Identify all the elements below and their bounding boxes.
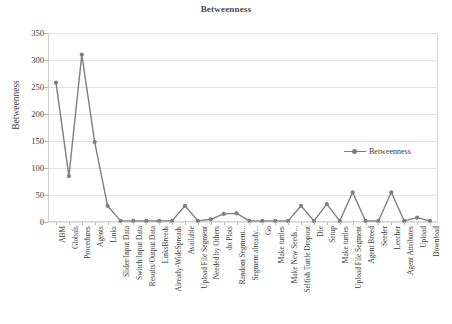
x-axis-tick-mark: [69, 222, 70, 225]
x-axis-tick-mark: [366, 222, 367, 225]
x-axis-category-label: Results/Output Data: [149, 226, 156, 286]
y-axis-tick-label: 350: [10, 28, 44, 38]
data-point-marker: [54, 81, 58, 85]
x-axis-tick-mark: [108, 222, 109, 225]
x-axis-category-label: Upload File Segment: [201, 226, 208, 289]
data-point-marker: [80, 53, 84, 57]
x-axis-tick-mark: [314, 222, 315, 225]
x-axis-tick-mark: [172, 222, 173, 225]
x-axis-tick-mark: [237, 222, 238, 225]
x-axis-tick-mark: [224, 222, 225, 225]
x-axis-category-label: Slider/Input Data: [123, 226, 130, 277]
x-axis-tick-mark: [340, 222, 341, 225]
y-axis-tick-labels: 050100150200250300350: [6, 33, 44, 222]
x-axis-category-label: Switch/Input Data: [136, 226, 143, 280]
data-point-marker: [67, 174, 71, 178]
data-point-marker: [93, 140, 97, 144]
plot-area: [48, 33, 438, 222]
x-axis-category-label: Download: [433, 226, 440, 257]
x-axis-tick-mark: [95, 222, 96, 225]
x-axis-category-label: Leecher: [394, 226, 401, 250]
data-series-layer: [48, 33, 438, 222]
x-axis-tick-mark: [146, 222, 147, 225]
y-axis-tick-label: 200: [10, 109, 44, 119]
x-axis-category-label: Links: [110, 226, 117, 243]
data-point-marker: [325, 202, 329, 206]
chart-title: Betweenness: [0, 4, 452, 14]
x-axis-category-label: Seeder: [381, 226, 388, 246]
chart-legend: Betweenness: [344, 147, 411, 156]
x-axis-category-label: Make turtles: [342, 226, 349, 263]
x-axis-tick-mark: [198, 222, 199, 225]
x-axis-tick-mark: [430, 222, 431, 225]
y-axis-tick-label: 300: [10, 55, 44, 65]
data-point-marker: [209, 217, 213, 221]
y-axis-tick-label: 100: [10, 163, 44, 173]
data-point-marker: [389, 190, 393, 194]
x-axis-category-label: Selfish Turtle Dropout: [304, 226, 311, 293]
x-axis-category-label: Globals: [72, 226, 79, 249]
x-axis-tick-mark: [159, 222, 160, 225]
x-axis-tick-mark: [404, 222, 405, 225]
x-axis-tick-mark: [301, 222, 302, 225]
x-axis-category-label: ABM: [59, 226, 66, 243]
data-point-marker: [234, 211, 238, 215]
y-axis-tick-label: 150: [10, 136, 44, 146]
x-axis-tick-mark: [82, 222, 83, 225]
x-axis-tick-mark: [378, 222, 379, 225]
x-axis-category-label: Agent Attributes: [407, 226, 414, 275]
x-axis-tick-mark: [262, 222, 263, 225]
x-axis-tick-mark: [185, 222, 186, 225]
x-axis-category-label: Upload: [420, 226, 427, 248]
x-axis-category-label: Make turtles: [278, 226, 285, 263]
x-axis-tick-mark: [56, 222, 57, 225]
x-axis-category-label: Go: [265, 226, 272, 235]
x-axis-tick-mark: [327, 222, 328, 225]
x-axis-tick-mark: [211, 222, 212, 225]
x-axis-category-label: Available: [188, 226, 195, 254]
betweenness-line-chart: Betweenness Betweenness 0501001502002503…: [0, 0, 452, 324]
x-axis-tick-mark: [288, 222, 289, 225]
x-axis-category-label: Agents: [97, 226, 104, 247]
x-axis-category-label: Segment already...: [252, 226, 259, 281]
x-axis-category-label: LinksBreeds: [162, 226, 169, 263]
x-axis-tick-mark: [391, 222, 392, 225]
x-axis-category-label: Already-WideSpreads: [175, 226, 182, 291]
legend-entry-label: Betweenness: [369, 147, 411, 156]
x-axis-category-label: Setup: [329, 226, 336, 243]
x-axis-tick-mark: [417, 222, 418, 225]
x-axis-category-label: Procedures: [84, 226, 91, 259]
data-point-marker: [222, 212, 226, 216]
x-axis-category-label: Die: [317, 226, 324, 237]
x-axis-category-label: Needed by Others: [213, 226, 220, 279]
series-line-betweenness: [56, 55, 430, 221]
x-axis-category-label: Agent Breed: [368, 226, 375, 264]
x-axis-tick-mark: [133, 222, 134, 225]
x-axis-tick-mark: [121, 222, 122, 225]
x-axis-category-label: Make New Seeds...: [291, 226, 298, 283]
data-point-marker: [351, 190, 355, 194]
y-axis-tick-label: 0: [10, 217, 44, 227]
x-axis-category-labels: ABMGlobalsProceduresAgentsLinksSlider/In…: [48, 226, 438, 322]
x-axis-tick-mark: [275, 222, 276, 225]
data-point-marker: [183, 204, 187, 208]
x-axis-category-label: Upload File Segment: [355, 226, 362, 289]
data-point-marker: [105, 204, 109, 208]
data-point-marker: [299, 204, 303, 208]
y-axis-tick-label: 250: [10, 82, 44, 92]
legend-line-marker-icon: [344, 148, 366, 156]
x-axis-category-label: Random Segment...: [239, 226, 246, 284]
x-axis-tick-mark: [353, 222, 354, 225]
x-axis-category-label: do Plots: [226, 226, 233, 250]
y-axis-tick-label: 50: [10, 190, 44, 200]
data-point-marker: [415, 216, 419, 220]
